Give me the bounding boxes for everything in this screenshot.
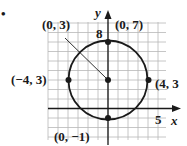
y-axis-label: y bbox=[93, 5, 101, 20]
x-axis-arrow-icon bbox=[172, 105, 181, 112]
point-center bbox=[105, 77, 111, 83]
point-right bbox=[146, 77, 152, 83]
label-bottom: (0, −1) bbox=[54, 129, 90, 144]
label-center: (0, 3) bbox=[42, 17, 70, 32]
y-axis-arrow-icon bbox=[105, 10, 112, 19]
point-bottom bbox=[105, 115, 111, 121]
x-tick-label: 5 bbox=[155, 112, 162, 127]
circle-graph: • y x 8 5 (0, 3) (0, 7) (−4, 3) (4, 3 (0… bbox=[0, 0, 187, 146]
label-top: (0, 7) bbox=[115, 17, 143, 32]
y-tick-label: 8 bbox=[96, 26, 103, 41]
point-top bbox=[105, 39, 111, 45]
label-left: (−4, 3) bbox=[11, 72, 47, 87]
label-right: (4, 3 bbox=[155, 76, 179, 91]
point-left bbox=[66, 77, 72, 83]
center-leader-line bbox=[65, 38, 106, 78]
x-axis-label: x bbox=[170, 113, 178, 128]
bullet: • bbox=[1, 6, 6, 21]
